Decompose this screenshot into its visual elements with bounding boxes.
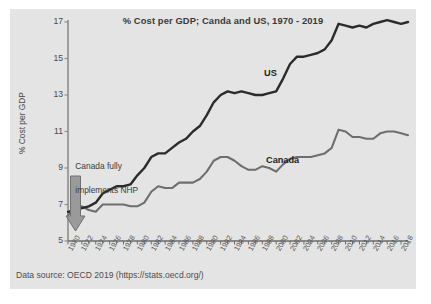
chart-figure: % Cost per GDP; Canda and US, 1970 - 201… <box>0 0 431 304</box>
annotation-text: Canada fully implements NHP <box>66 148 162 208</box>
annotation-line-1: Canada fully <box>75 161 122 171</box>
series-label-canada: Canada <box>266 155 299 165</box>
y-tick-11: 11 <box>41 126 63 136</box>
series-label-us: US <box>264 68 277 78</box>
y-tick-15: 15 <box>41 53 63 63</box>
chart-title: % Cost per GDP; Canda and US, 1970 - 201… <box>108 15 338 26</box>
chart-plot-area <box>0 0 431 304</box>
y-tick-7: 7 <box>41 199 63 209</box>
y-tick-13: 13 <box>41 89 63 99</box>
y-tick-5: 5 <box>41 235 63 245</box>
y-axis-title: % Cost per GDP <box>17 78 27 168</box>
y-tick-9: 9 <box>41 162 63 172</box>
y-tick-17: 17 <box>41 16 63 26</box>
source-note: Data source: OECD 2019 (https://stats.oe… <box>16 270 204 280</box>
annotation-line-2: implements NHP <box>75 185 138 195</box>
